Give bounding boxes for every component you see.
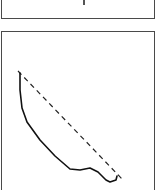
diagram-canvas — [0, 0, 156, 190]
dashed-reference-line — [18, 71, 124, 181]
solid-curve — [20, 73, 117, 182]
